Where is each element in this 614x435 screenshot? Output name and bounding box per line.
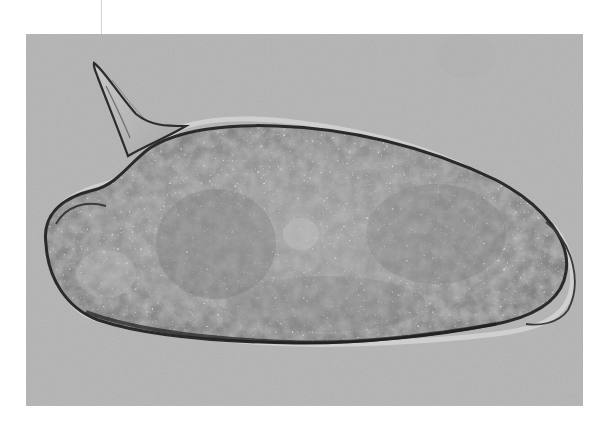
egg-light-spot: [76, 250, 136, 298]
egg-dark-region: [226, 276, 426, 332]
egg-light-spot: [283, 218, 319, 250]
micrograph-photo: Grayscale brightfield micrograph of an e…: [26, 34, 583, 406]
egg-dark-region: [156, 189, 276, 299]
scan-guide-line: [101, 0, 102, 35]
egg-illustration: [26, 34, 583, 406]
background-blotch: [436, 34, 496, 78]
egg-dark-region: [366, 184, 506, 284]
